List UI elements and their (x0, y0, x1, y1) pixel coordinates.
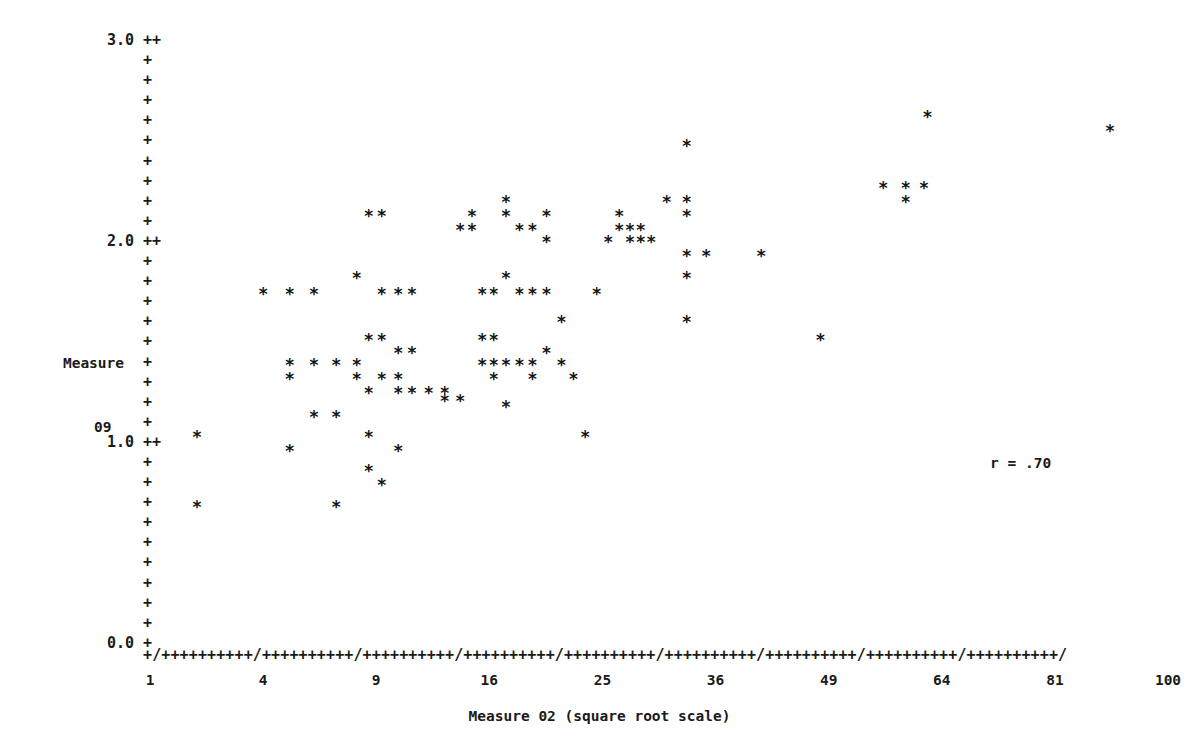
y-axis-minor-tick: + (143, 251, 203, 271)
x-axis-tick-label: 9 (372, 672, 381, 688)
data-point-marker: * (310, 356, 319, 373)
data-point-marker: * (682, 270, 691, 287)
data-point-marker: * (456, 392, 465, 409)
y-axis-minor-tick: + (143, 171, 203, 191)
data-point-marker: * (919, 179, 928, 196)
data-point-marker: * (478, 286, 487, 303)
y-axis-tick-glyph: + (143, 191, 152, 211)
y-axis-tick-glyph: + (143, 613, 152, 633)
y-axis-tick-glyph: + (143, 372, 152, 392)
data-point-marker: * (636, 221, 645, 238)
data-point-marker: * (682, 248, 691, 265)
data-point-marker: * (364, 332, 373, 349)
y-axis-tick-glyph: + (143, 492, 152, 512)
data-point-marker: * (923, 109, 932, 126)
data-point-marker: * (352, 270, 361, 287)
data-point-marker: * (489, 370, 498, 387)
data-point-marker: * (408, 344, 417, 361)
y-axis-tick-glyph: + (143, 151, 152, 171)
data-point-marker: * (615, 207, 624, 224)
x-axis-tick-label: 49 (820, 672, 837, 688)
data-point-marker: * (394, 344, 403, 361)
y-axis-minor-tick: + (143, 311, 203, 331)
data-point-marker: * (364, 207, 373, 224)
data-point-marker: * (364, 463, 373, 480)
y-axis-minor-tick: + (143, 50, 203, 70)
y-axis-tick-glyph: + (143, 311, 152, 331)
data-point-marker: * (489, 286, 498, 303)
y-axis-minor-tick: + (143, 613, 203, 633)
data-point-marker: * (557, 314, 566, 331)
x-axis-tick-label: 1 (146, 672, 155, 688)
data-point-marker: * (468, 207, 477, 224)
data-point-marker: * (515, 286, 524, 303)
y-axis-title-line1: Measure (63, 355, 124, 371)
data-point-marker: * (259, 286, 268, 303)
data-point-marker: * (682, 193, 691, 210)
data-point-marker: * (332, 499, 341, 516)
data-point-marker: * (626, 221, 635, 238)
y-axis-minor-tick: + (143, 352, 203, 372)
data-point-marker: * (489, 332, 498, 349)
x-axis-tick-label: 81 (1046, 672, 1063, 688)
y-axis-tick-glyph: ++ (143, 30, 161, 50)
data-point-marker: * (542, 207, 551, 224)
data-point-marker: * (542, 286, 551, 303)
y-axis-tick-glyph: + (143, 532, 152, 552)
data-point-marker: * (528, 221, 537, 238)
data-point-marker: * (440, 392, 449, 409)
data-point-marker: * (581, 428, 590, 445)
y-axis-tick-glyph: + (143, 251, 152, 271)
y-axis-minor-tick: + (143, 151, 203, 171)
y-axis-tick-label: 3.0 (107, 30, 143, 50)
y-axis-tick-glyph: + (143, 291, 152, 311)
data-point-marker: * (528, 370, 537, 387)
data-point-marker: * (489, 356, 498, 373)
y-axis-minor-tick: + (143, 392, 203, 412)
data-point-marker: * (901, 179, 910, 196)
y-axis-minor-tick: + (143, 372, 203, 392)
data-point-marker: * (682, 207, 691, 224)
data-point-marker: * (647, 234, 656, 251)
data-point-marker: * (502, 356, 511, 373)
x-axis-tick-labels: 149162536496481100 (0, 672, 1199, 694)
data-point-marker: * (468, 221, 477, 238)
data-point-marker: * (682, 314, 691, 331)
data-point-marker: * (285, 370, 294, 387)
y-axis-minor-tick: + (143, 331, 203, 351)
data-point-marker: * (310, 408, 319, 425)
data-point-marker: * (879, 179, 888, 196)
y-axis-minor-tick: + (143, 452, 203, 472)
data-point-marker: * (377, 332, 386, 349)
y-axis-tick-glyph: + (143, 593, 152, 613)
y-axis-minor-tick: + (143, 593, 203, 613)
x-axis-rule: +/++++++++++/++++++++++/++++++++++/+++++… (143, 645, 1067, 665)
data-point-marker: * (285, 286, 294, 303)
y-axis-minor-tick: + (143, 492, 203, 512)
data-point-marker: * (394, 370, 403, 387)
y-axis-tick-glyph: + (143, 130, 152, 150)
y-axis-tick-glyph: + (143, 412, 152, 432)
data-point-marker: * (636, 234, 645, 251)
x-axis-tick-label: 4 (259, 672, 268, 688)
data-point-marker: * (332, 356, 341, 373)
data-point-marker: * (424, 384, 433, 401)
y-axis-title: Measure 09 (28, 333, 124, 477)
y-axis-major-tick: 3.0 ++ (143, 30, 203, 50)
x-axis-tick-label: 25 (594, 672, 611, 688)
data-point-marker: * (352, 370, 361, 387)
x-axis-tick-label: 100 (1155, 672, 1181, 688)
y-axis-tick-glyph: + (143, 552, 152, 572)
data-point-marker: * (408, 286, 417, 303)
y-axis-tick-glyph: + (143, 211, 152, 231)
x-axis-tick-label: 16 (481, 672, 498, 688)
data-point-marker: * (332, 408, 341, 425)
data-point-marker: * (502, 207, 511, 224)
y-axis-minor-tick: + (143, 412, 203, 432)
data-point-marker: * (377, 477, 386, 494)
data-point-marker: * (377, 370, 386, 387)
data-point-marker: * (542, 344, 551, 361)
y-axis-tick-glyph: + (143, 392, 152, 412)
data-point-marker: * (394, 286, 403, 303)
y-axis-tick-glyph: + (143, 70, 152, 90)
